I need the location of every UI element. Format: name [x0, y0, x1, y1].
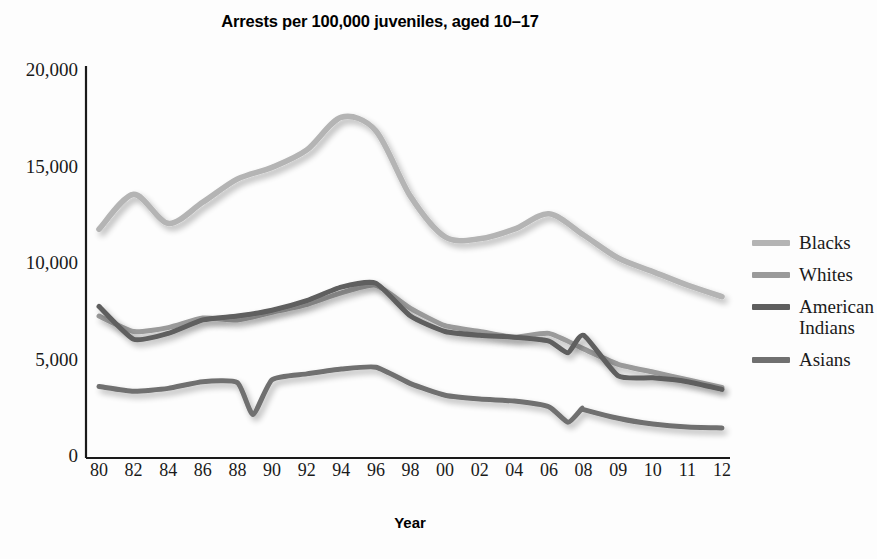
- x-tick-label: 09: [609, 460, 627, 480]
- x-tick-label: 06: [540, 460, 558, 480]
- legend-item-blacks[interactable]: Blacks: [752, 232, 877, 253]
- legend-swatch-icon: [752, 357, 790, 363]
- x-tick-label: 94: [332, 460, 350, 480]
- y-tick-label: 10,000: [26, 252, 78, 273]
- series-line-whites: [99, 285, 722, 387]
- legend-item-american-indians[interactable]: American Indians: [752, 296, 877, 338]
- legend-item-asians[interactable]: Asians: [752, 349, 877, 370]
- legend-item-label: Whites: [799, 264, 853, 285]
- y-tick-label: 5,000: [35, 349, 78, 370]
- legend-swatch-icon: [752, 240, 790, 246]
- x-tick-label: 92: [298, 460, 316, 480]
- x-axis-title: Year: [95, 514, 725, 531]
- y-tick-label: 0: [69, 445, 79, 466]
- x-tick-label: 86: [194, 460, 212, 480]
- legend-item-label: Asians: [799, 349, 851, 370]
- x-tick-label: 82: [125, 460, 143, 480]
- x-tick-label: 88: [228, 460, 246, 480]
- legend-swatch-icon: [752, 272, 790, 278]
- x-tick-label: 80: [90, 460, 108, 480]
- x-tick-label: 00: [436, 460, 454, 480]
- x-tick-label: 10: [644, 460, 662, 480]
- legend-item-whites[interactable]: Whites: [752, 264, 877, 285]
- series-line-american-indians: [99, 282, 722, 389]
- chart-legend: BlacksWhitesAmerican IndiansAsians: [752, 232, 877, 381]
- legend-swatch-icon: [752, 304, 790, 310]
- x-tick-labels: 80828486889092949698000204060809101112: [90, 460, 731, 480]
- legend-item-label: American Indians: [799, 296, 874, 338]
- y-tick-labels: 05,00010,00015,00020,000: [26, 59, 78, 466]
- x-tick-label: 12: [713, 460, 731, 480]
- legend-item-label: Blacks: [799, 232, 851, 253]
- y-tick-label: 15,000: [26, 156, 78, 177]
- series-line-blacks: [99, 116, 722, 296]
- x-tick-label: 11: [679, 460, 696, 480]
- x-tick-label: 98: [402, 460, 420, 480]
- x-tick-label: 96: [367, 460, 385, 480]
- x-tick-label: 90: [263, 460, 281, 480]
- x-tick-label: 04: [505, 460, 523, 480]
- chart-plot-area: 05,00010,00015,00020,000 808284868890929…: [0, 0, 877, 559]
- x-tick-label: 08: [575, 460, 593, 480]
- y-tick-label: 20,000: [26, 59, 78, 80]
- chart-figure: Arrests per 100,000 juveniles, aged 10–1…: [0, 0, 877, 559]
- data-series-layer: [99, 116, 722, 428]
- x-tick-label: 84: [159, 460, 177, 480]
- x-tick-label: 02: [471, 460, 489, 480]
